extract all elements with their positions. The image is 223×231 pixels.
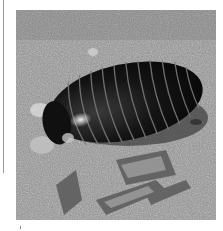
millipede-photo: [16, 10, 216, 220]
margin-tick: [20, 226, 21, 229]
margin-line: [3, 0, 4, 173]
